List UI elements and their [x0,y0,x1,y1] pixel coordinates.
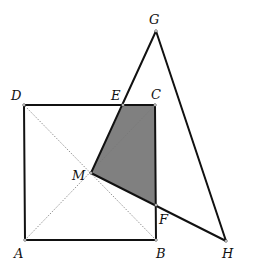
label-g: G [149,12,159,27]
label-f: F [158,212,169,227]
label-b: B [155,246,166,261]
point-g [155,30,158,33]
point-f [155,204,158,207]
geometry-diagram: A B C D E F G H M [0,0,253,273]
label-e: E [110,88,121,103]
point-h [225,240,228,243]
label-h: H [221,246,234,261]
point-b [155,239,158,242]
point-d [23,104,26,107]
label-d: D [10,88,22,103]
label-m: M [71,168,86,183]
label-c: C [151,87,161,102]
point-c [154,104,157,107]
label-a: A [13,246,23,261]
point-a [24,239,27,242]
point-m [90,172,93,175]
point-e [122,104,125,107]
